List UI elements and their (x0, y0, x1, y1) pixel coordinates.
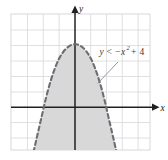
x-axis-arrowhead (152, 104, 160, 111)
inequality-constant: 4 (140, 47, 145, 57)
inequality-plus-sign: + (131, 47, 136, 57)
inequality-variable: x (120, 47, 126, 57)
inequality-lhs: y (99, 47, 105, 57)
parabola-inequality-figure: y < − x 2 + 4 y x (0, 0, 168, 160)
inequality-operator: < (107, 47, 112, 57)
graph-canvas: y < − x 2 + 4 y x (0, 0, 168, 160)
y-axis-label: y (78, 4, 84, 14)
inequality-minus-sign: − (115, 47, 120, 57)
x-axis-label: x (160, 103, 166, 113)
y-axis-arrowhead (71, 6, 78, 14)
